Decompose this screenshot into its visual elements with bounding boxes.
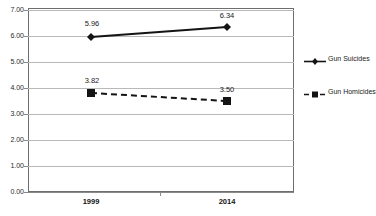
y-axis-label-2: 2.00	[0, 136, 24, 144]
y-tickmark-6	[24, 36, 28, 37]
y-axis-label-7: 7.00	[0, 6, 24, 14]
x-axis-label-1999: 1999	[61, 197, 121, 207]
y-tickmark-3	[24, 114, 28, 115]
y-tickmark-2	[24, 140, 28, 141]
y-tickmark-0	[24, 192, 28, 193]
data-label-suicides-2014: 6.34	[207, 11, 247, 20]
x-axis-label-2014: 2014	[197, 197, 257, 207]
gridline-1	[28, 166, 294, 167]
y-tickmark-4	[24, 88, 28, 89]
legend-label-gun-homicides: Gun Homicides	[326, 87, 376, 96]
gridline-2	[28, 140, 294, 141]
y-axis-label-0: 0.00	[0, 188, 24, 196]
axis-line-x	[28, 192, 294, 193]
data-label-suicides-1999: 5.96	[72, 19, 112, 28]
y-tickmark-7	[24, 10, 28, 11]
legend-swatch-gun-homicides	[304, 86, 326, 97]
x-tickmark-mid	[160, 192, 161, 196]
y-axis-label-3: 3.00	[0, 110, 24, 118]
legend-item-gun-suicides[interactable]: Gun Suicides	[304, 52, 370, 64]
gridline-4	[28, 88, 294, 89]
legend-item-gun-homicides[interactable]: Gun Homicides	[304, 85, 376, 97]
y-axis-label-4: 4.00	[0, 84, 24, 92]
gridline-7	[28, 10, 294, 11]
y-axis-label-6: 6.00	[0, 32, 24, 40]
gridline-3	[28, 114, 294, 115]
data-label-homicides-1999: 3.82	[72, 76, 112, 85]
legend-swatch-gun-suicides	[304, 53, 326, 64]
y-tickmark-5	[24, 62, 28, 63]
y-tickmark-1	[24, 166, 28, 167]
y-axis-label-1: 1.00	[0, 162, 24, 170]
gridline-6	[28, 36, 294, 37]
gridline-5	[28, 62, 294, 63]
legend-label-gun-suicides: Gun Suicides	[326, 54, 370, 63]
data-label-homicides-2014: 3.50	[207, 85, 247, 94]
y-axis-label-5: 5.00	[0, 58, 24, 66]
